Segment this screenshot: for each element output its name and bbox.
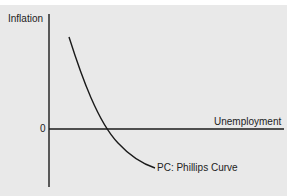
y-axis-label: Inflation: [8, 14, 43, 24]
phillips-curve-chart: [0, 0, 287, 196]
x-axis-label: Unemployment: [214, 117, 281, 127]
phillips-curve-line: [69, 37, 155, 168]
origin-tick-label: 0: [40, 124, 46, 134]
curve-label: PC: Phillips Curve: [157, 163, 238, 173]
